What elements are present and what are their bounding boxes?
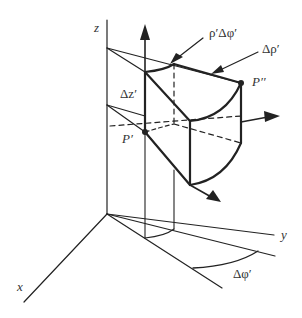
hidden-edge-rho bbox=[174, 124, 241, 143]
leader-drho bbox=[218, 52, 258, 71]
y-axis-label: y bbox=[281, 228, 287, 241]
radial-line-bottom-2 bbox=[107, 105, 145, 116]
ray-phi-2 bbox=[107, 214, 222, 288]
hidden-arc-bottom bbox=[145, 124, 174, 132]
dphi-label: Δφ′ bbox=[233, 267, 252, 280]
rho-dphi-label: ρ′Δφ′ bbox=[209, 26, 237, 39]
p-double-prime-label: P′′ bbox=[252, 75, 266, 88]
p-prime-label: P′ bbox=[122, 132, 133, 145]
point-p-double-prime bbox=[238, 80, 244, 86]
unit-vector-rho-shaft bbox=[241, 117, 268, 122]
floor-arc-inner bbox=[145, 229, 174, 238]
dz-label: Δz′ bbox=[120, 87, 137, 100]
volume-element bbox=[145, 64, 241, 185]
arrowhead-rho bbox=[264, 111, 280, 122]
arrowhead-z bbox=[140, 24, 150, 40]
radial-line-top-2 bbox=[107, 48, 145, 72]
diagram-drawing bbox=[0, 0, 302, 318]
y-axis bbox=[107, 214, 274, 235]
arrowhead-leader-drho bbox=[211, 65, 224, 74]
point-p-prime bbox=[142, 129, 148, 135]
radial-line-bottom-1 bbox=[107, 105, 145, 132]
z-axis-label: z bbox=[94, 21, 99, 34]
drho-label: Δρ′ bbox=[262, 42, 280, 55]
ray-phi-1 bbox=[107, 214, 275, 256]
diagram-canvas: z x y ρ′Δφ′ Δρ′ P′′ Δz′ P′ Δφ′ bbox=[0, 0, 302, 318]
x-axis-label: x bbox=[17, 280, 23, 293]
x-axis bbox=[24, 214, 107, 302]
